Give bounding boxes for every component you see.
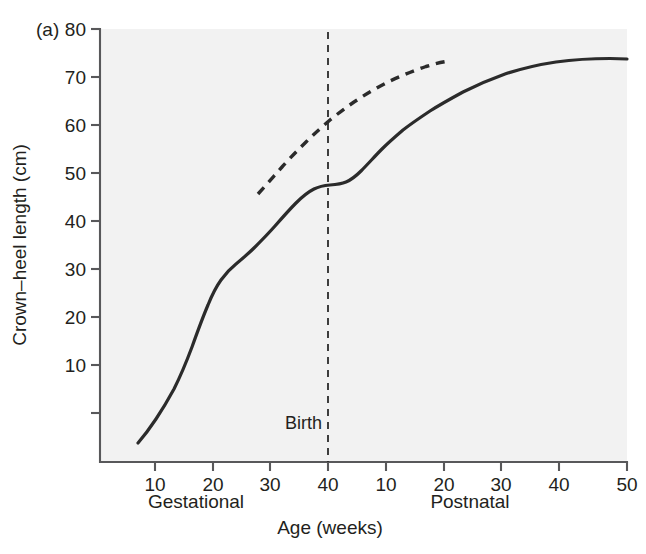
y-tick-label-80: 80	[65, 19, 86, 40]
x-tick-label-post-50: 50	[616, 474, 637, 495]
y-tick-label-40: 40	[65, 211, 86, 232]
y-axis-title: Crown–heel length (cm)	[9, 144, 30, 346]
chart-canvas: 80 70 60 50 40 30 20 10 10 20 30 40 10	[0, 0, 646, 554]
x-tick-label-post-40: 40	[548, 474, 569, 495]
y-tick-label-20: 20	[65, 307, 86, 328]
y-tick-label-10: 10	[65, 355, 86, 376]
x-tick-label-gest-40: 40	[317, 474, 338, 495]
y-tick-label-30: 30	[65, 259, 86, 280]
y-axis-ticks	[91, 29, 100, 413]
y-tick-label-60: 60	[65, 115, 86, 136]
x-axis-segment-postnatal: Postnatal	[430, 491, 509, 512]
x-axis-segment-gestational: Gestational	[148, 491, 244, 512]
x-tick-label-post-10: 10	[375, 474, 396, 495]
y-tick-label-70: 70	[65, 67, 86, 88]
birth-annotation-label: Birth	[285, 413, 322, 433]
panel-label: (a)	[36, 19, 59, 40]
y-axis-tick-labels: 80 70 60 50 40 30 20 10	[65, 19, 86, 376]
x-axis-title: Age (weeks)	[277, 517, 383, 538]
y-tick-label-50: 50	[65, 163, 86, 184]
x-axis-ticks	[155, 462, 627, 471]
x-tick-label-gest-30: 30	[259, 474, 280, 495]
growth-chart-figure: 80 70 60 50 40 30 20 10 10 20 30 40 10	[0, 0, 646, 554]
